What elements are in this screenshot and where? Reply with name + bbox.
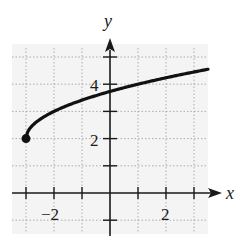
x-tick-label-2: 2 xyxy=(161,205,170,224)
y-axis-label: y xyxy=(102,11,112,31)
start-point-marker xyxy=(22,134,31,143)
y-tick-label-2: 2 xyxy=(90,131,99,150)
x-axis-label: x xyxy=(225,183,234,203)
function-graph: x y −2 2 2 4 xyxy=(0,0,245,244)
x-tick-label-neg2: −2 xyxy=(41,205,59,224)
y-tick-label-4: 4 xyxy=(90,76,99,95)
